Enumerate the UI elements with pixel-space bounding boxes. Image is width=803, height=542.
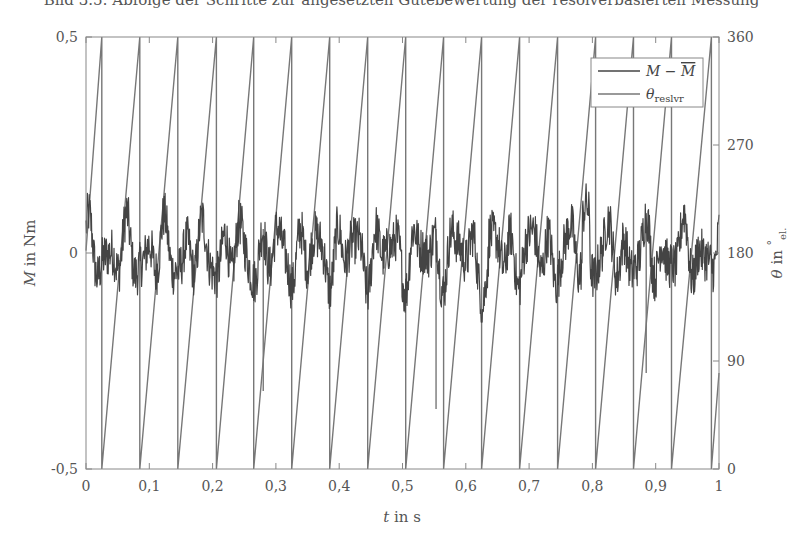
- x-tick-label: 0,9: [645, 478, 667, 494]
- legend-label-torque-bar: M: [680, 63, 696, 79]
- x-tick-label: 0,5: [391, 478, 413, 494]
- y-tick-label-left: -0,5: [51, 461, 78, 477]
- x-tick-label: 0,6: [455, 478, 477, 494]
- x-axis-label: t in s: [383, 508, 421, 526]
- y-tick-label-left: 0,5: [56, 29, 78, 45]
- legend-label-torque: M − M: [645, 63, 696, 79]
- y-tick-label-right: 180: [727, 245, 754, 261]
- y-tick-label-left: 0: [69, 245, 78, 261]
- torque-ripple-series: [86, 184, 719, 322]
- x-tick-label: 1: [715, 478, 724, 494]
- x-tick-label: 0,7: [518, 478, 540, 494]
- x-tick-label: 0,2: [201, 478, 223, 494]
- torque-noise-line: [86, 184, 719, 322]
- x-tick-label: 0: [82, 478, 91, 494]
- y-axis-label-left: M in Nm: [21, 220, 39, 288]
- x-tick-label: 0,1: [138, 478, 160, 494]
- x-tick-label: 0,3: [265, 478, 287, 494]
- y-tick-label-right: 360: [727, 29, 754, 45]
- x-tick-label: 0,4: [328, 478, 350, 494]
- legend: M − M θreslvr: [591, 58, 703, 107]
- y-axis-label-right: θ in °el.: [766, 228, 788, 279]
- chart: 00,10,20,30,40,50,60,70,80,91-0,500,5090…: [0, 0, 803, 542]
- y-tick-label-right: 90: [727, 353, 745, 369]
- x-tick-label: 0,8: [581, 478, 603, 494]
- y-tick-label-right: 270: [727, 137, 754, 153]
- y-tick-label-right: 0: [727, 461, 736, 477]
